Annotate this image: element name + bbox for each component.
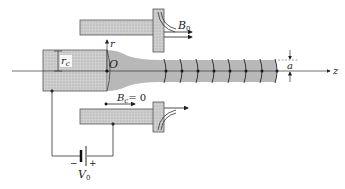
- plus-label: +: [89, 158, 97, 168]
- upper-anode: [80, 9, 176, 52]
- b0-label: B0: [177, 19, 191, 33]
- r-label: r: [110, 38, 116, 49]
- battery-icon: [81, 146, 86, 166]
- electron-beam: [107, 50, 276, 91]
- a-label: a: [287, 60, 293, 71]
- origin-label: O: [109, 58, 118, 71]
- minus-label: −: [70, 158, 78, 168]
- z-label: z: [332, 65, 339, 76]
- bc-label: Bc= 0: [116, 92, 146, 105]
- lower-anode: [80, 102, 176, 132]
- cathode: [43, 50, 107, 91]
- electron-beam-diagram: B0 z r O rc: [0, 0, 345, 189]
- v0-label: V0: [78, 168, 90, 182]
